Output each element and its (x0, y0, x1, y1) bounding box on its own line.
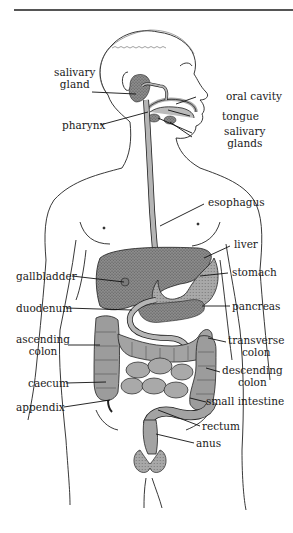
salivary-gland-sublingual (164, 116, 176, 124)
label-appendix: appendix (16, 401, 65, 413)
label-transverse-colon: transverse colon (228, 334, 284, 358)
label-tongue: tongue (222, 110, 259, 122)
label-pancreas: pancreas (232, 300, 281, 312)
label-caecum: caecum (28, 377, 69, 389)
label-rectum: rectum (202, 420, 240, 432)
label-liver: liver (234, 238, 258, 250)
label-esophagus: esophagus (208, 196, 265, 208)
small-intestine (121, 358, 193, 398)
label-ascending-colon: ascending colon (16, 333, 70, 357)
label-stomach: stomach (232, 266, 277, 278)
label-anus: anus (196, 437, 221, 449)
label-oral-cavity: oral cavity (226, 90, 282, 102)
label-pharynx: pharynx (62, 119, 105, 131)
label-gallbladder: gallbladder (16, 270, 77, 282)
label-small-intestine: small intestine (206, 395, 284, 407)
label-duodenum: duodenum (16, 302, 72, 314)
salivary-gland-parotid (129, 74, 150, 102)
label-salivary-glands: salivary glands (224, 125, 266, 149)
appendix (108, 400, 112, 412)
head-outline (100, 31, 207, 168)
diagram-page: salivary gland oral cavity tongue pharyn… (0, 0, 293, 533)
label-salivary-gland: salivary gland (54, 66, 96, 90)
label-descending-colon: descending colon (222, 364, 283, 388)
rectum (143, 420, 157, 454)
